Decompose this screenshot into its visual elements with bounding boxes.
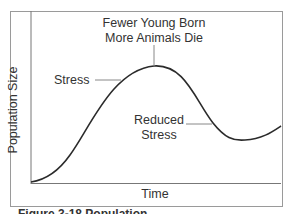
peak-annotation-line-1: Fewer Young Born: [98, 16, 210, 31]
reduced-stress-line-1: Reduced: [130, 113, 188, 128]
peak-annotation: Fewer Young Born More Animals Die: [98, 16, 210, 46]
reduced-stress-label: Reduced Stress: [130, 113, 188, 143]
stress-label: Stress: [54, 73, 89, 88]
y-axis-label-text: Population Size: [6, 67, 20, 154]
y-axis-label: Population Size: [3, 40, 23, 180]
reduced-stress-line-2: Stress: [130, 128, 188, 143]
x-axis-label: Time: [130, 187, 180, 202]
figure-caption: Figure 3-18 Population ...: [18, 207, 161, 214]
peak-annotation-line-2: More Animals Die: [98, 31, 210, 46]
